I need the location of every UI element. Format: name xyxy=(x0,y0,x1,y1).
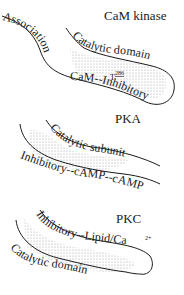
pka-title: PKA xyxy=(115,111,142,126)
cam-kinase-site-number: 286 xyxy=(115,70,124,76)
pka-group: PKA Catalytic subunit Inhibitory--cAMP--… xyxy=(19,111,160,193)
pkc-ion-charge: 2+ xyxy=(145,235,152,241)
pkc-title: PKC xyxy=(116,211,141,226)
cam-kinase-title: CaM kinase xyxy=(104,8,167,23)
pkc-group: PKC Inhibitory--Lipid/Ca 2+ Catalytic do… xyxy=(8,208,153,277)
cam-kinase-group: CaM kinase Association Catalytic domain … xyxy=(1,8,174,104)
cam-kinase-association-label: Association xyxy=(1,9,54,54)
kinase-topology-diagram: CaM kinase Association Catalytic domain … xyxy=(0,0,184,295)
cam-kinase-association-text: Association xyxy=(1,9,54,54)
